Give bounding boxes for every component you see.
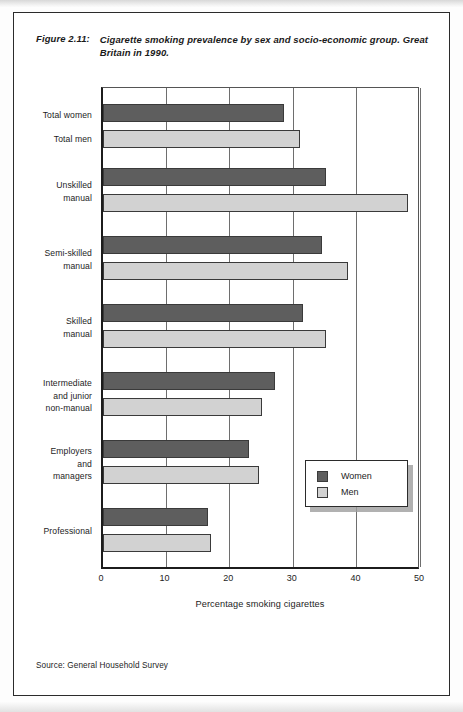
y-axis-labels: Total womenTotal menUnskilled manualSemi… bbox=[14, 87, 96, 569]
legend-item-men: Men bbox=[317, 484, 407, 500]
gridline-20 bbox=[229, 88, 230, 567]
bar-men bbox=[103, 330, 330, 352]
x-axis-tick-labels: 01020304050 bbox=[101, 573, 419, 589]
legend-swatch-women-icon bbox=[317, 471, 328, 482]
legend-item-women: Women bbox=[317, 468, 407, 484]
x-tick-0: 0 bbox=[98, 573, 103, 583]
y-axis-label: Total women bbox=[43, 109, 92, 122]
bar-women bbox=[103, 440, 253, 462]
y-axis-label: Total men bbox=[54, 133, 92, 146]
bar-body bbox=[103, 194, 408, 212]
gridline-50 bbox=[420, 88, 421, 567]
bar-body bbox=[103, 398, 262, 416]
x-tick-50: 50 bbox=[414, 573, 424, 583]
x-tick-10: 10 bbox=[160, 573, 170, 583]
y-axis-label: Employers and managers bbox=[51, 445, 93, 483]
bar-body bbox=[103, 534, 211, 552]
legend-label-men: Men bbox=[341, 487, 359, 497]
bar-women bbox=[103, 104, 288, 126]
source-note: Source: General Household Survey bbox=[36, 661, 168, 670]
figure-container: Figure 2.11: Cigarette smoking prevalenc… bbox=[13, 12, 450, 696]
bar-body bbox=[103, 304, 303, 322]
bar-women bbox=[103, 236, 326, 258]
legend-swatch-men-icon bbox=[317, 487, 328, 498]
bar-women bbox=[103, 168, 330, 190]
bar-women bbox=[103, 508, 212, 530]
scanned-page: Figure 2.11: Cigarette smoking prevalenc… bbox=[0, 0, 463, 712]
bar-body bbox=[103, 508, 208, 526]
bar-men bbox=[103, 398, 266, 420]
bar-body bbox=[103, 130, 300, 148]
bar-men bbox=[103, 534, 215, 556]
chart: Total womenTotal menUnskilled manualSemi… bbox=[14, 13, 451, 697]
chart-legend: Women Men bbox=[305, 460, 413, 512]
legend-label-women: Women bbox=[341, 471, 372, 481]
bar-men bbox=[103, 262, 352, 284]
bar-women bbox=[103, 372, 279, 394]
scan-edge-bottom bbox=[0, 702, 463, 712]
bar-body bbox=[103, 168, 326, 186]
bar-men bbox=[103, 466, 263, 488]
y-axis-label: Skilled manual bbox=[63, 315, 92, 340]
bar-men bbox=[103, 130, 304, 152]
y-axis-label: Intermediate and junior non-manual bbox=[43, 377, 92, 415]
x-tick-20: 20 bbox=[223, 573, 233, 583]
bar-body bbox=[103, 466, 259, 484]
gridline-10 bbox=[166, 88, 167, 567]
y-axis-label: Professional bbox=[44, 525, 93, 538]
bar-body bbox=[103, 372, 275, 390]
bar-women bbox=[103, 304, 307, 326]
legend-box: Women Men bbox=[305, 460, 408, 507]
gridline-30 bbox=[293, 88, 294, 567]
y-axis-label: Semi-skilled manual bbox=[44, 247, 92, 272]
bar-body bbox=[103, 440, 249, 458]
x-axis-title: Percentage smoking cigarettes bbox=[101, 599, 419, 609]
x-tick-40: 40 bbox=[350, 573, 360, 583]
bar-body bbox=[103, 104, 284, 122]
bar-body bbox=[103, 236, 322, 254]
bar-body bbox=[103, 330, 326, 348]
x-tick-30: 30 bbox=[287, 573, 297, 583]
bar-men bbox=[103, 194, 412, 216]
scan-edge-top bbox=[0, 0, 463, 7]
bar-body bbox=[103, 262, 348, 280]
y-axis-label: Unskilled manual bbox=[56, 179, 92, 204]
